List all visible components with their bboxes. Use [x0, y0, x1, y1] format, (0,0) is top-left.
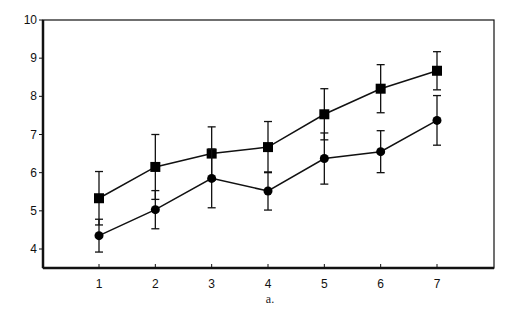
square-marker	[432, 66, 442, 76]
square-marker	[319, 109, 329, 119]
y-tick-label: 4	[30, 242, 37, 256]
chart-series	[94, 52, 442, 252]
y-tick-label: 6	[30, 166, 37, 180]
line-chart: 456789101234567	[0, 0, 520, 319]
square-marker	[263, 142, 273, 152]
figure-caption: a.	[0, 292, 520, 307]
y-tick-label: 8	[30, 89, 37, 103]
square-marker	[376, 84, 386, 94]
y-tick-label: 9	[30, 51, 37, 65]
circle-marker	[151, 205, 160, 214]
circle-marker	[376, 147, 385, 156]
circle-marker	[320, 154, 329, 163]
y-tick-label: 7	[30, 128, 37, 142]
series-circles	[95, 96, 442, 252]
x-tick-label: 2	[152, 277, 159, 291]
x-tick-label: 3	[208, 277, 215, 291]
square-marker	[150, 162, 160, 172]
x-tick-label: 7	[434, 277, 441, 291]
x-tick-label: 4	[265, 277, 272, 291]
x-tick-label: 1	[96, 277, 103, 291]
circle-marker	[95, 231, 104, 240]
x-tick-label: 5	[321, 277, 328, 291]
x-tick-label: 6	[377, 277, 384, 291]
y-tick-label: 5	[30, 204, 37, 218]
circle-marker	[433, 116, 442, 125]
chart-axes: 456789101234567	[24, 13, 494, 291]
circle-marker	[264, 186, 273, 195]
square-marker	[94, 193, 104, 203]
y-tick-label: 10	[24, 13, 38, 27]
circle-marker	[207, 174, 216, 183]
